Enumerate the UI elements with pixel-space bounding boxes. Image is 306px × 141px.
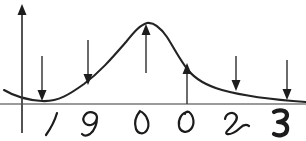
- arrow-up-axis: [18, 4, 27, 133]
- bell-curve-path: [4, 23, 306, 102]
- hand-drawn-chart: [0, 0, 306, 141]
- digit-2-glyph: [225, 113, 249, 134]
- arrow-down-tail1: [232, 56, 241, 91]
- digit-0b-glyph: [179, 112, 194, 132]
- figure-canvas: 1 9 0 0 2 3: [0, 0, 306, 141]
- arrow-down-tail2: [283, 60, 292, 100]
- digit-9-glyph: [82, 112, 97, 135]
- arrow-up-peak: [142, 24, 151, 73]
- arrow-down-min: [38, 56, 47, 101]
- digit-3-glyph: [274, 110, 287, 135]
- arrow-up-fall: [183, 63, 192, 104]
- handwritten-digit-sequence: [46, 110, 287, 135]
- digit-0a-glyph: [135, 111, 148, 133]
- digit-1-glyph: [46, 113, 57, 135]
